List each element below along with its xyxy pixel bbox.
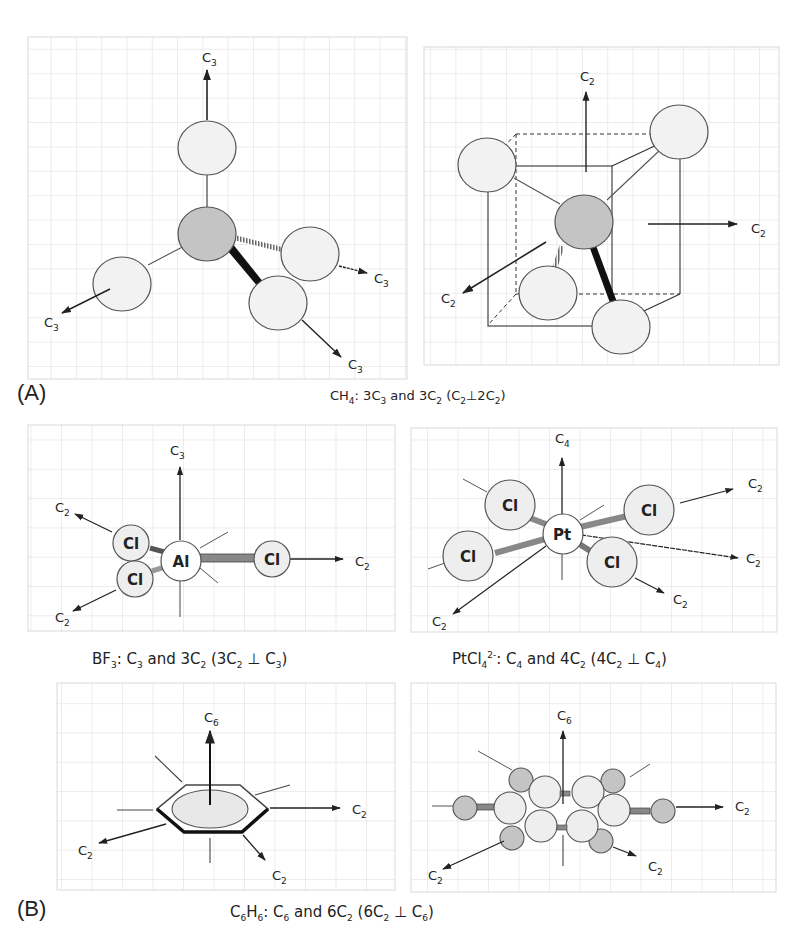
- ptcl4-caption: PtCl42-: C4 and 4C2 (4C2 ⊥ C4): [452, 650, 667, 670]
- atom-label: Cl: [604, 554, 620, 572]
- c-atom: [525, 810, 557, 842]
- grid-background: [411, 428, 777, 632]
- panel-benzene-ring: C6 C2 C2 C2: [57, 683, 395, 890]
- h-atom: [458, 138, 516, 192]
- ch4-caption: CH4: 3C3 and 3C2 (C2⊥2C2): [330, 388, 506, 406]
- h-atom: [650, 105, 708, 159]
- c-c-bond: [560, 791, 570, 796]
- atom-label: Al: [173, 553, 190, 571]
- bf3-caption: BF3: C3 and 3C2 (3C2 ⊥ C3): [92, 650, 287, 670]
- c-h-bond: [476, 804, 496, 810]
- atom-label: Cl: [127, 571, 143, 589]
- c-atom: [566, 810, 598, 842]
- h-atom: [178, 121, 236, 175]
- panel-bf3: Cl Cl Al Cl C3 C2 C2 C2: [28, 425, 395, 631]
- h-atom: [281, 227, 339, 281]
- atom-label: Pt: [553, 526, 571, 544]
- symmetry-axes-figure: C3 C3 C3 C3 C2 C2 C2: [0, 0, 807, 944]
- h-atom: [249, 276, 307, 330]
- h-atom: [500, 826, 524, 850]
- c-atom: [494, 792, 526, 824]
- atom-label: Cl: [460, 548, 476, 566]
- h-atom: [592, 300, 650, 354]
- panel-ch4-c3: C3 C3 C3 C3: [28, 37, 407, 379]
- c-atom: [555, 195, 613, 249]
- h-atom: [93, 257, 151, 311]
- panel-ch4-cube: C2 C2 C2: [424, 47, 779, 365]
- c-atom: [598, 794, 630, 826]
- atom-label: Cl: [502, 497, 518, 515]
- benzene-caption: C6H6: C6 and 6C2 (6C2 ⊥ C6): [230, 903, 434, 923]
- panel-benzene-balls: C6 C2 C2 C2: [411, 683, 776, 892]
- part-a-label: (A): [17, 380, 46, 405]
- c-atom: [178, 207, 236, 261]
- h-atom: [453, 796, 477, 820]
- grid-background: [28, 425, 395, 631]
- h-atom: [651, 799, 675, 823]
- c-h-bond: [630, 808, 650, 814]
- c-atom: [529, 776, 561, 808]
- panel-ptcl4: Cl Cl Pt Cl Cl C4 C2 C2 C2 C2: [411, 428, 777, 632]
- part-b-label: (B): [17, 896, 46, 921]
- h-atom: [519, 266, 577, 320]
- atom-label: Cl: [264, 551, 280, 569]
- atom-label: Cl: [641, 502, 657, 520]
- grid-background: [28, 37, 407, 379]
- h-atom: [601, 769, 625, 793]
- atom-label: Cl: [123, 535, 139, 553]
- c-c-bond: [557, 825, 567, 830]
- al-cl-bond: [200, 554, 256, 562]
